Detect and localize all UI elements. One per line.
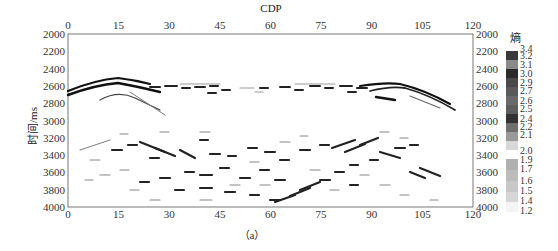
x-tick-top: 105 <box>414 19 431 31</box>
y-tick-right: 2800 <box>476 97 499 109</box>
y-tick-left: 2400 <box>43 63 66 75</box>
colorbar: 熵 3.4 3.2 3.1 3.0 2.9 2.7 2.6 2.5 2.4 2.… <box>506 31 533 216</box>
y-tick-right: 3400 <box>476 149 499 161</box>
y-tick-left: 3800 <box>43 184 66 196</box>
y-axis-right: 2000 2200 2400 2600 2800 3000 3200 3400 … <box>476 28 499 213</box>
x-tick-top: 75 <box>316 19 328 31</box>
y-tick-left: 3000 <box>43 115 66 127</box>
y-tick-right: 4000 <box>476 201 499 213</box>
colorbar-label: 1.7 <box>520 163 533 174</box>
y-tick-left: 2000 <box>43 28 66 40</box>
x-tick-bottom: 45 <box>214 208 226 220</box>
y-tick-right: 3000 <box>476 115 499 127</box>
y-tick-left: 2800 <box>43 97 66 109</box>
figure-caption: （a） <box>239 229 266 241</box>
y-tick-right: 3800 <box>476 184 499 196</box>
y-tick-left: 4000 <box>43 201 66 213</box>
x-tick-bottom: 90 <box>366 208 378 220</box>
y-tick-left: 3200 <box>43 132 66 144</box>
x-tick-top: 0 <box>65 19 71 31</box>
y-tick-right: 2400 <box>476 63 499 75</box>
y-tick-right: 2600 <box>476 80 499 92</box>
x-tick-top: 90 <box>366 19 378 31</box>
colorbar-label: 1.2 <box>520 205 533 216</box>
y-tick-right: 2200 <box>476 45 499 57</box>
x-tick-bottom: 15 <box>113 208 125 220</box>
x-tick-top: 30 <box>164 19 176 31</box>
top-axis-title: CDP <box>260 2 281 14</box>
y-tick-left: 3400 <box>43 149 66 161</box>
y-tick-left: 3600 <box>43 166 66 178</box>
y-axis-left: 2000 2200 2400 2600 2800 3000 3200 3400 … <box>43 28 66 213</box>
x-tick-bottom: 60 <box>265 208 277 220</box>
colorbar-label: 2.1 <box>520 129 533 140</box>
y-tick-right: 2000 <box>476 28 499 40</box>
x-axis-top: 0 15 30 45 60 75 90 105 120 <box>65 19 482 31</box>
y-tick-left: 2600 <box>43 80 66 92</box>
x-tick-bottom: 75 <box>316 208 328 220</box>
x-axis-bottom: 0 15 30 45 60 75 90 105 120 <box>65 208 482 220</box>
x-tick-top: 60 <box>265 19 277 31</box>
plot-area <box>68 34 473 207</box>
y-tick-right: 3200 <box>476 132 499 144</box>
x-tick-top: 45 <box>214 19 226 31</box>
x-tick-bottom: 105 <box>414 208 431 220</box>
y-tick-left: 2200 <box>43 45 66 57</box>
x-tick-top: 15 <box>113 19 125 31</box>
figure: CDP 0 15 30 45 60 75 90 105 120 0 15 30 … <box>0 0 558 251</box>
y-tick-right: 3600 <box>476 166 499 178</box>
x-tick-bottom: 30 <box>164 208 176 220</box>
y-axis-title: 时间/ms <box>27 107 39 145</box>
x-tick-bottom: 0 <box>65 208 71 220</box>
